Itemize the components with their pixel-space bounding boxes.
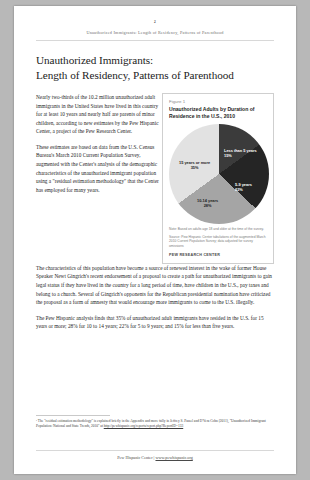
pie-label-less-than-5: Less than 5 years 15%: [224, 148, 257, 159]
page-title-line1: Unauthorized Immigrants:: [36, 54, 153, 66]
text-column: Nearly two-thirds of the 10.2 million un…: [36, 93, 160, 201]
pie-label-5-9-text: 5-9 years: [235, 182, 252, 187]
footnote-divider: [36, 415, 110, 416]
running-head: Unauthorized Immigrants: Length of Resid…: [14, 30, 296, 35]
paragraph-4: The Pew Hispanic analysis finds that 35%…: [36, 314, 274, 331]
pie-chart: Less than 5 years 15% 5-9 years 22% 10-1…: [169, 124, 269, 224]
figure-title: Unauthorized Adults by Duration of Resid…: [169, 106, 267, 120]
footer-divider: [36, 450, 274, 451]
pie-label-15-or-more-text: 15 years or more: [179, 160, 210, 165]
figure-1: Figure 1 Unauthorized Adults by Duration…: [162, 93, 274, 264]
pie-value-less-than-5: 15%: [224, 153, 257, 158]
pie-value-15-or-more: 35%: [179, 165, 210, 170]
header-divider: [36, 40, 274, 41]
page-title-line2: Length of Residency, Patterns of Parenth…: [36, 69, 234, 81]
body-columns: Figure 1 Unauthorized Adults by Duration…: [36, 93, 274, 264]
pie-label-10-14-text: 10-14 years: [197, 198, 218, 203]
figure-label: Figure 1: [169, 99, 267, 104]
page-content: Unauthorized Immigrants: Length of Resid…: [14, 53, 296, 331]
figure-source: Source: Pew Hispanic Center tabulations …: [169, 235, 267, 249]
pie-label-5-9: 5-9 years 22%: [235, 182, 252, 193]
document-page: 2 Unauthorized Immigrants: Length of Res…: [14, 6, 296, 474]
footnote: ¹ The "residual estimation methodology" …: [36, 419, 274, 430]
footer-credit-text: Pew Hispanic Center |: [117, 455, 155, 460]
paragraph-1: Nearly two-thirds of the 10.2 million un…: [36, 93, 160, 136]
pie-shape: [169, 124, 269, 224]
footer-credit: Pew Hispanic Center | www.pewhispanic.or…: [36, 455, 274, 460]
pie-label-less-than-5-text: Less than 5 years: [224, 148, 257, 153]
page-number: 2: [14, 20, 296, 24]
figure-title-line2: Residence in the U.S., 2010: [169, 113, 235, 119]
footnote-area: ¹ The "residual estimation methodology" …: [36, 415, 274, 430]
figure-title-line1: Unauthorized Adults by Duration of: [169, 106, 255, 112]
pie-value-5-9: 22%: [235, 187, 252, 192]
footer-website-link[interactable]: www.pewhispanic.org: [155, 455, 192, 460]
figure-note: Note: Based on adults age 18 and older a…: [169, 227, 267, 232]
figure-brand: PEW RESEARCH CENTER: [169, 253, 267, 257]
pie-value-10-14: 28%: [197, 203, 218, 208]
footnote-link[interactable]: http://pewhispanic.org/reports/report.ph…: [104, 424, 183, 428]
page-footer: Pew Hispanic Center | www.pewhispanic.or…: [36, 450, 274, 460]
page-title: Unauthorized Immigrants: Length of Resid…: [36, 53, 274, 83]
paragraph-2: These estimates are based on data from t…: [36, 143, 160, 194]
pie-label-15-or-more: 15 years or more 35%: [179, 160, 210, 171]
figure-column: Figure 1 Unauthorized Adults by Duration…: [162, 93, 274, 264]
pie-label-10-14: 10-14 years 28%: [197, 198, 218, 209]
paragraph-3: The characteristics of this population h…: [36, 264, 274, 307]
